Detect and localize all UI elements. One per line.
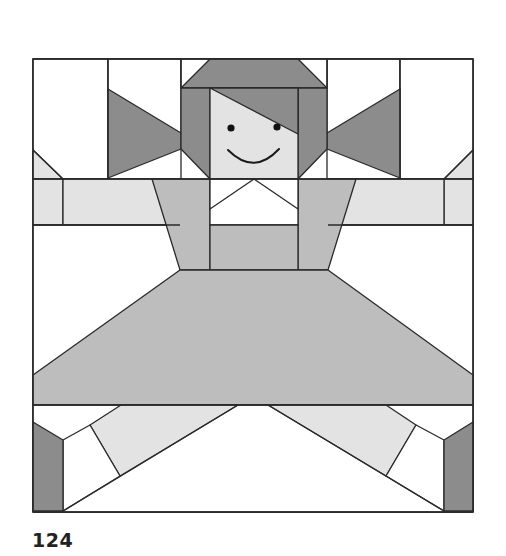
left-hand (33, 179, 63, 225)
left-eye-icon (227, 124, 234, 131)
quilt-block-diagram (0, 0, 506, 556)
bodice (210, 225, 298, 270)
right-eye-icon (273, 123, 280, 130)
page-number: 124 (32, 529, 73, 551)
right-hand (444, 179, 473, 225)
